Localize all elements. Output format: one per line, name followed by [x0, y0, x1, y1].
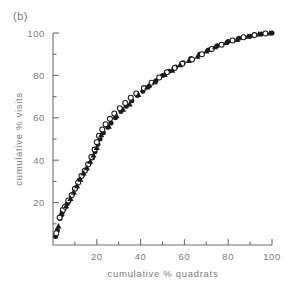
- series-open-circle: [54, 31, 268, 236]
- y-axis-title: cumulative % visits: [13, 92, 24, 186]
- series-filled-circle: [53, 31, 274, 240]
- scatter-plot: 20406080100 20406080100 cumulative % qua…: [0, 0, 294, 292]
- marker-open-circle: [94, 140, 99, 145]
- marker-open-circle: [107, 116, 112, 121]
- axes-group: [53, 33, 272, 245]
- x-axis-tick-labels: 20406080100: [91, 251, 281, 262]
- x-tick-label: 80: [222, 251, 234, 262]
- marker-open-circle: [252, 33, 257, 38]
- x-tick-label: 40: [135, 251, 147, 262]
- y-tick-label: 40: [33, 155, 45, 166]
- y-tick-label: 100: [27, 28, 45, 39]
- y-tick-label: 80: [33, 70, 45, 81]
- marker-open-circle: [103, 122, 108, 127]
- marker-open-circle: [123, 100, 128, 105]
- x-tick-label: 20: [91, 251, 103, 262]
- marker-open-circle: [128, 95, 133, 100]
- x-tick-label: 100: [263, 251, 281, 262]
- marker-open-circle: [100, 127, 105, 132]
- marker-open-circle: [241, 35, 246, 40]
- marker-open-circle: [199, 52, 204, 57]
- y-tick-label: 60: [33, 112, 45, 123]
- marker-open-circle: [157, 75, 162, 80]
- panel-label: (b): [13, 10, 28, 22]
- y-tick-label: 20: [33, 197, 45, 208]
- data-markers-group: [53, 30, 274, 239]
- x-axis-ticks: [75, 239, 272, 245]
- figure-panel: (b) 20406080100 20406080100 cumulative %…: [0, 0, 294, 292]
- x-axis-title: cumulative % quadrats: [108, 268, 219, 279]
- series-triangle: [55, 30, 272, 228]
- y-axis-ticks: [53, 33, 59, 224]
- marker-open-circle: [54, 231, 59, 236]
- y-axis-tick-labels: 20406080100: [27, 28, 45, 209]
- x-tick-label: 60: [179, 251, 191, 262]
- marker-open-circle: [230, 38, 235, 43]
